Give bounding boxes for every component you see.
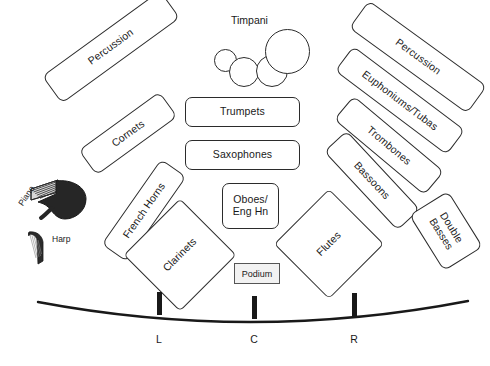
stage-edge-curve (0, 0, 490, 366)
marker-right[interactable] (352, 293, 357, 316)
marker-right-label: R (344, 333, 364, 345)
marker-center[interactable] (252, 296, 257, 319)
marker-left[interactable] (157, 292, 162, 315)
marker-center-label: C (244, 333, 264, 345)
marker-left-label: L (149, 333, 169, 345)
stage-seating-chart: PercussionCornetsFrench HornsClarinetsTr… (0, 0, 490, 366)
